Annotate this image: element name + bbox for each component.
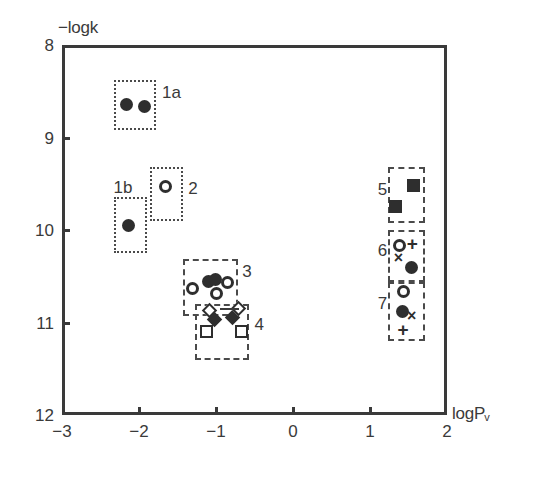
group-box-5: [388, 167, 425, 223]
x-tick-mark: [215, 407, 218, 415]
data-point-open-circle: [159, 180, 172, 193]
x-tick-label: −3: [47, 422, 77, 442]
y-axis-title: −logk: [58, 18, 98, 38]
y-tick-label: 8: [20, 36, 54, 56]
data-point-filled-square: [407, 179, 420, 192]
data-point-cross: ×: [390, 250, 406, 266]
x-tick-label: 0: [278, 422, 308, 442]
group-box-2: [150, 167, 183, 221]
group-label-1a: 1a: [162, 83, 181, 103]
y-tick-mark: [62, 322, 70, 325]
group-label-7: 7: [378, 294, 387, 314]
x-tick-label: −1: [201, 422, 231, 442]
x-tick-mark: [292, 407, 295, 415]
data-point-filled-circle: [138, 100, 151, 113]
group-label-2: 2: [188, 179, 197, 199]
y-tick-label: 10: [20, 221, 54, 241]
data-point-plus: +: [395, 320, 411, 339]
group-label-3: 3: [242, 262, 251, 282]
x-tick-label: −2: [124, 422, 154, 442]
x-tick-label: 1: [355, 422, 385, 442]
y-tick-mark: [62, 229, 70, 232]
x-axis-title-subscript: v: [484, 411, 489, 423]
data-point-open-square: [200, 325, 213, 338]
group-label-1b: 1b: [114, 178, 133, 198]
y-tick-label: 11: [20, 314, 54, 334]
x-tick-mark: [369, 407, 372, 415]
data-point-plus: +: [404, 234, 420, 253]
scatter-chart-figure: −logk logPv 89101112−3−2−10121a1b23456+×…: [0, 0, 533, 478]
x-axis-title: logPv: [452, 404, 490, 424]
group-label-6: 6: [378, 241, 387, 261]
y-tick-label: 9: [20, 129, 54, 149]
data-point-filled-square: [389, 200, 402, 213]
group-label-5: 5: [378, 180, 387, 200]
data-point-filled-circle: [120, 98, 133, 111]
group-label-4: 4: [255, 315, 264, 335]
x-tick-label: 2: [432, 422, 462, 442]
data-point-open-square: [235, 325, 248, 338]
x-tick-mark: [138, 407, 141, 415]
y-tick-mark: [62, 137, 70, 140]
data-point-filled-circle: [405, 261, 418, 274]
cluster-connector-line: [220, 308, 239, 310]
